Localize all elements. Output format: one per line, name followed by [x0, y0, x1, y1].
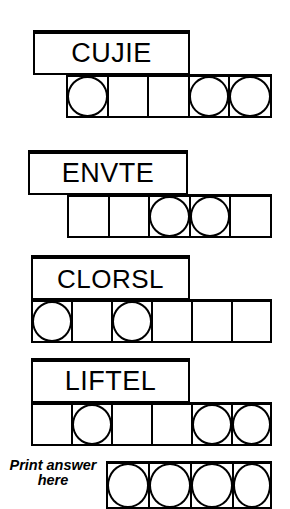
- letter-cell[interactable]: [233, 302, 270, 341]
- letter-cell[interactable]: [233, 405, 270, 444]
- answer-cells-4: [31, 402, 272, 446]
- letter-cell[interactable]: [193, 405, 233, 444]
- word-box-4: LIFTEL: [31, 358, 190, 403]
- scrambled-word-3: CLORSL: [57, 266, 164, 292]
- answer-letter-cell[interactable]: [108, 464, 150, 507]
- circle-marker-icon: [232, 404, 271, 445]
- circle-marker-icon: [229, 76, 271, 117]
- circle-marker-icon: [190, 196, 231, 237]
- print-answer-here-label: Print answer here: [2, 458, 104, 488]
- circle-marker-icon: [149, 196, 190, 237]
- answer-letter-cell[interactable]: [150, 464, 192, 507]
- scrambled-word-4: LIFTEL: [65, 368, 157, 395]
- circle-marker-icon: [32, 301, 72, 342]
- letter-cell[interactable]: [150, 197, 191, 236]
- answer-cells-3: [31, 299, 272, 343]
- print-answer-here-line-2: here: [2, 473, 104, 488]
- letter-cell[interactable]: [33, 302, 73, 341]
- answer-cells-1: [66, 74, 272, 118]
- word-box-3: CLORSL: [31, 255, 190, 300]
- letter-cell[interactable]: [231, 197, 270, 236]
- circle-marker-icon: [149, 463, 191, 508]
- letter-cell[interactable]: [110, 197, 151, 236]
- circle-marker-icon: [72, 404, 112, 445]
- circle-marker-icon: [233, 463, 271, 508]
- word-box-1: CUJIE: [33, 30, 190, 75]
- answer-letter-cell[interactable]: [192, 464, 234, 507]
- letter-cell[interactable]: [113, 405, 153, 444]
- scrambled-word-2: ENVTE: [62, 160, 155, 187]
- letter-cell[interactable]: [193, 302, 233, 341]
- letter-cell[interactable]: [230, 77, 270, 116]
- letter-cell[interactable]: [73, 405, 113, 444]
- circle-marker-icon: [189, 76, 230, 117]
- letter-cell[interactable]: [191, 197, 232, 236]
- circle-marker-icon: [67, 76, 108, 117]
- letter-cell[interactable]: [109, 77, 150, 116]
- letter-cell[interactable]: [68, 77, 109, 116]
- word-box-2: ENVTE: [28, 150, 188, 195]
- letter-cell[interactable]: [153, 302, 193, 341]
- letter-cell[interactable]: [190, 77, 231, 116]
- letter-cell[interactable]: [69, 197, 110, 236]
- circle-marker-icon: [191, 463, 233, 508]
- scrambled-word-1: CUJIE: [71, 40, 152, 67]
- letter-cell[interactable]: [153, 405, 193, 444]
- letter-cell[interactable]: [73, 302, 113, 341]
- circle-marker-icon: [192, 404, 232, 445]
- circle-marker-icon: [112, 301, 152, 342]
- answer-cells-2: [67, 194, 272, 238]
- answer-final-cells: [106, 461, 272, 509]
- print-answer-here-line-1: Print answer: [2, 458, 104, 473]
- answer-letter-cell[interactable]: [234, 464, 270, 507]
- letter-cell[interactable]: [33, 405, 73, 444]
- circle-marker-icon: [107, 463, 149, 508]
- letter-cell[interactable]: [149, 77, 190, 116]
- letter-cell[interactable]: [113, 302, 153, 341]
